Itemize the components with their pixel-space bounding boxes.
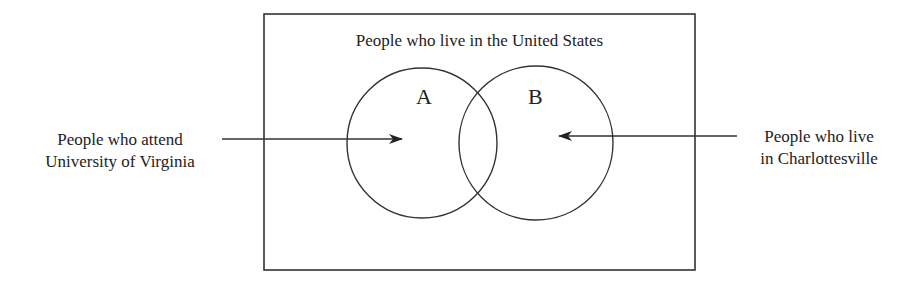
universe-label: People who live in the United States xyxy=(264,30,695,52)
annotation-charlottesville-line-2: in Charlottesville xyxy=(744,148,894,170)
set-b-label: B xyxy=(528,85,543,109)
annotation-uva-line-2: University of Virginia xyxy=(28,151,212,173)
annotation-uva-line-1: People who attend xyxy=(28,129,212,151)
annotation-charlottesville: People who live in Charlottesville xyxy=(744,126,894,170)
annotation-uva: People who attend University of Virginia xyxy=(28,129,212,173)
set-a-label: A xyxy=(416,85,432,109)
universe-rectangle xyxy=(264,14,695,270)
venn-diagram: People who live in the United States A B… xyxy=(0,0,922,288)
annotation-charlottesville-line-1: People who live xyxy=(744,126,894,148)
